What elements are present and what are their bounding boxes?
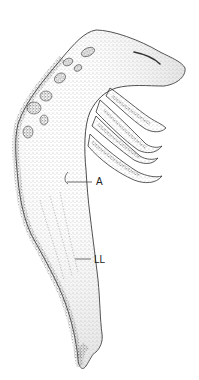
- label-ll: LL: [94, 255, 105, 265]
- label-a: A: [96, 177, 103, 187]
- lobes: [88, 88, 166, 183]
- main-body: [16, 30, 185, 368]
- specimen-illustration: [0, 0, 199, 380]
